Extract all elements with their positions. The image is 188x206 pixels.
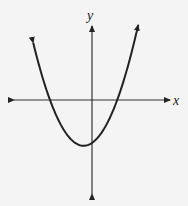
parabola-chart: x y [0, 0, 188, 206]
parabola-curve [33, 25, 138, 146]
y-axis-label: y [85, 8, 94, 23]
x-axis-label: x [172, 93, 180, 108]
